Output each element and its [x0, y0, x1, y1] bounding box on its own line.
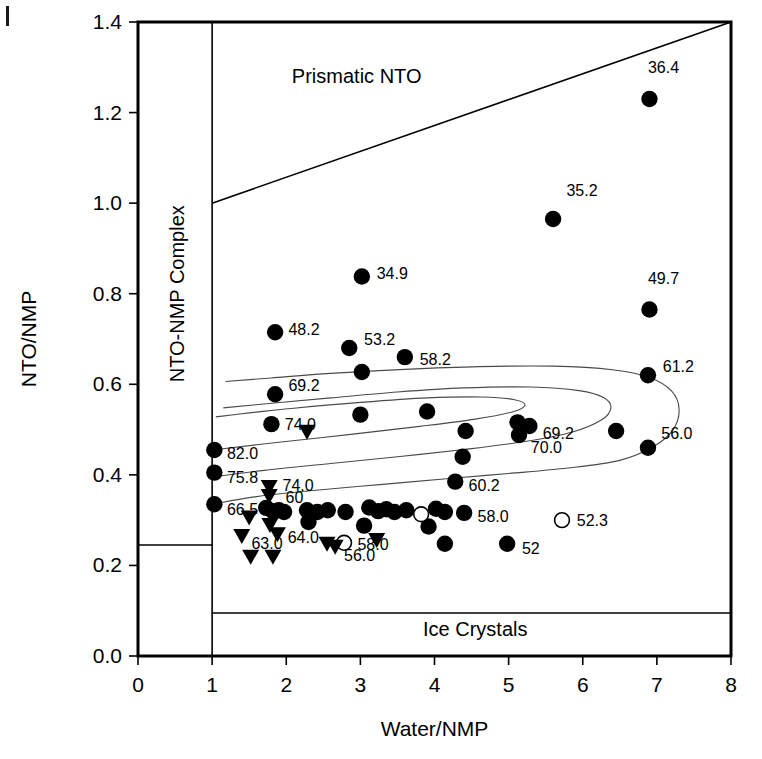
y-tick-label-1.4: 1.4 [93, 10, 123, 33]
y-tick-label-1.0: 1.0 [93, 191, 122, 214]
data-point-filled-circle [419, 403, 435, 419]
y-tick-label-0.4: 0.4 [93, 463, 123, 486]
data-point-filled-circle [398, 502, 414, 518]
x-tick-label-1: 1 [206, 673, 218, 696]
y-axis-title: NTO/NMP [17, 291, 40, 387]
data-point-label-34-9: 34.9 [377, 265, 408, 282]
data-point-filled-circle [267, 324, 283, 340]
data-point-label-69-2: 69.2 [288, 377, 319, 394]
figure-scatter-plot: 0123456780.00.20.40.60.81.01.21.4Water/N… [0, 0, 762, 759]
data-point-filled-circle [276, 504, 292, 520]
data-point-open-circle [414, 507, 429, 522]
data-point-filled-circle [263, 416, 279, 432]
data-point-label-60: 60 [286, 489, 304, 506]
plot-canvas: 0123456780.00.20.40.60.81.01.21.4Water/N… [0, 0, 762, 759]
data-point-label-60-2: 60.2 [469, 477, 500, 494]
x-tick-label-5: 5 [503, 673, 515, 696]
data-point-label-53-2: 53.2 [364, 331, 395, 348]
data-point-filled-circle [437, 504, 453, 520]
plot-frame [138, 22, 731, 656]
data-point-filled-circle [499, 535, 515, 551]
data-point-filled-circle [300, 514, 316, 530]
y-tick-label-0.8: 0.8 [93, 282, 122, 305]
data-point-filled-circle [456, 505, 472, 521]
data-point-filled-circle [354, 364, 370, 380]
data-point-label-49-7: 49.7 [648, 270, 679, 287]
data-point-filled-circle [206, 496, 222, 512]
data-point-filled-circle [641, 91, 657, 107]
region-label-prismatic-nto: Prismatic NTO [292, 65, 422, 87]
data-point-filled-circle [320, 502, 336, 518]
data-point-filled-triangle [241, 510, 258, 525]
x-axis-title: Water/NMP [381, 717, 489, 740]
data-point-label-52: 52 [522, 540, 540, 557]
data-point-label-35-2: 35.2 [566, 182, 597, 199]
data-point-filled-circle [397, 349, 413, 365]
region-label-nto-nmp-complex: NTO-NMP Complex [166, 205, 188, 382]
x-tick-label-0: 0 [132, 673, 144, 696]
prismatic-nto-boundary [212, 22, 731, 203]
data-point-filled-circle [640, 439, 656, 455]
x-tick-label-6: 6 [577, 673, 589, 696]
x-tick-label-3: 3 [355, 673, 367, 696]
data-point-filled-circle [206, 442, 222, 458]
data-point-label-64-0: 64.0 [288, 529, 319, 546]
y-tick-label-0.6: 0.6 [93, 372, 122, 395]
data-point-label-52-3: 52.3 [577, 512, 608, 529]
x-tick-label-7: 7 [651, 673, 663, 696]
y-tick-label-0.0: 0.0 [93, 644, 122, 667]
data-point-filled-circle [206, 464, 222, 480]
data-point-label-56-0: 56.0 [661, 425, 692, 442]
data-point-open-circle [555, 513, 570, 528]
data-point-filled-triangle [233, 529, 250, 544]
data-point-filled-circle [354, 268, 370, 284]
data-point-filled-circle [437, 535, 453, 551]
y-tick-label-0.2: 0.2 [93, 553, 122, 576]
data-point-filled-circle [356, 517, 372, 533]
x-tick-label-2: 2 [280, 673, 292, 696]
data-point-filled-circle [608, 423, 624, 439]
data-point-filled-circle [454, 449, 470, 465]
data-point-filled-circle [337, 504, 353, 520]
data-point-filled-circle [511, 427, 527, 443]
data-point-filled-circle [545, 211, 561, 227]
data-point-filled-circle [341, 340, 357, 356]
data-point-filled-circle [641, 301, 657, 317]
data-point-filled-triangle [264, 550, 281, 565]
data-point-label-36-4: 36.4 [648, 59, 679, 76]
x-tick-label-8: 8 [725, 673, 737, 696]
data-point-label-48-2: 48.2 [288, 321, 319, 338]
data-point-label-58-0: 58.0 [477, 508, 508, 525]
data-point-filled-circle [447, 473, 463, 489]
data-point-label-56-0: 56.0 [344, 547, 375, 564]
y-tick-label-1.2: 1.2 [93, 101, 122, 124]
data-point-filled-circle [457, 423, 473, 439]
data-point-label-61-2: 61.2 [663, 358, 694, 375]
data-point-filled-circle [640, 367, 656, 383]
data-point-filled-circle [267, 386, 283, 402]
data-point-label-70-0: 70.0 [531, 439, 562, 456]
data-point-filled-circle [352, 406, 368, 422]
region-label-ice-crystals: Ice Crystals [423, 618, 527, 640]
data-point-label-82-0: 82.0 [227, 445, 258, 462]
x-tick-label-4: 4 [429, 673, 441, 696]
data-point-label-58-2: 58.2 [420, 351, 451, 368]
data-point-label-75-8: 75.8 [227, 469, 258, 486]
data-point-filled-triangle [242, 550, 259, 565]
